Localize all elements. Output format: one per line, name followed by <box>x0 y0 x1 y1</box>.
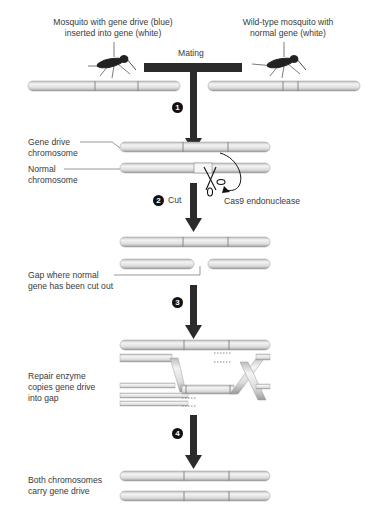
step-3-badge: 3 <box>172 297 183 308</box>
arrow-step-4 <box>185 455 202 469</box>
gene-drive-diagram <box>0 0 371 516</box>
mating-bar <box>144 63 242 72</box>
cut-normal-chromosome <box>120 259 270 269</box>
arrow-step-3 <box>185 325 202 339</box>
arrow-step-2 <box>185 218 202 232</box>
cut-label: Cut <box>168 195 181 206</box>
repair-label: Repair enzyme copies gene drive into gap <box>28 371 95 404</box>
gene-drive-chromosome <box>120 142 270 152</box>
final-chromosome-2 <box>120 491 270 501</box>
final-chromosome-1 <box>120 471 270 481</box>
mosquito-icon-right <box>252 42 306 78</box>
normal-chromosome-label: Normal chromosome <box>28 164 78 186</box>
gene-drive-chromosome-label: Gene drive chromosome <box>28 137 78 159</box>
cas9-label: Cas9 endonuclease <box>224 196 300 207</box>
gene-drive-chromosome-after-cut <box>120 237 270 247</box>
normal-chromosome <box>120 163 270 173</box>
repair-strands <box>120 340 270 406</box>
mosquito-icon-left <box>88 42 136 78</box>
gap-label: Gap where normal gene has been cut out <box>28 270 113 292</box>
step-1-badge: 1 <box>172 102 183 113</box>
step-4-badge: 4 <box>172 428 183 439</box>
step-2-badge: 2 <box>153 195 164 206</box>
parent-chromosome-right <box>208 81 360 91</box>
both-carry-label: Both chromosomes carry gene drive <box>28 475 102 497</box>
parent-chromosome-left <box>28 81 180 91</box>
